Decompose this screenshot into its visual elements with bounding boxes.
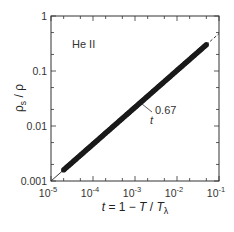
x-tick-label: 10-2 [165, 185, 183, 199]
material-label: He II [72, 38, 95, 50]
data-points [61, 42, 209, 172]
data-point [204, 42, 209, 47]
x-tick-label: 10-1 [207, 185, 225, 199]
fit-annotation-leader [142, 104, 152, 112]
x-label-mid: = 1 − [105, 200, 139, 214]
fit-annotation-base: t [150, 114, 154, 126]
y-tick-label: 0.001 [21, 175, 47, 187]
x-label-lambda-sub: λ [164, 206, 169, 216]
x-tick-label: 10-5 [39, 185, 57, 199]
y-tick-label: 1 [41, 10, 47, 22]
x-tick-label: 10-3 [123, 185, 141, 199]
y-tick-label: 0.01 [27, 120, 48, 132]
plot: 10-510-410-310-210-1 0.0010.010.11 He II… [0, 0, 234, 232]
x-tick-labels: 10-510-410-310-210-1 [39, 185, 225, 199]
y-tick-label: 0.1 [32, 65, 47, 77]
x-tick-label: 10-4 [81, 185, 99, 199]
y-label-rest: / ρ [12, 84, 26, 101]
y-axis-label: ρs / ρ [12, 84, 28, 112]
x-label-slash: / [146, 200, 156, 214]
fit-annotation-exponent: 0.67 [155, 104, 176, 116]
x-axis-label: t = 1 − T / Tλ [102, 200, 169, 216]
